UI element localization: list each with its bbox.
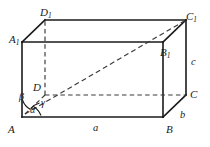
vertex-label-C1: C1	[186, 11, 197, 22]
cuboid-drawing	[0, 0, 210, 147]
geometry-figure: D1 C1 A1 B1 D C A B a b c α β γ	[0, 0, 210, 147]
vertex-label-B1: B1	[160, 47, 170, 58]
angle-label-alpha: α	[30, 105, 35, 115]
vertex-label-C: C	[190, 89, 197, 100]
edge-label-c: c	[191, 57, 196, 68]
vertex-label-D1: D1	[40, 7, 52, 18]
space-diagonal	[25, 20, 186, 114]
vertex-label-A1: A1	[9, 34, 19, 45]
vertex-label-D: D	[33, 82, 41, 93]
diagonal-A-C1	[25, 20, 186, 114]
vertex-label-B: B	[166, 124, 173, 135]
angle-label-beta: β	[19, 92, 24, 102]
edge-label-b: b	[180, 110, 185, 121]
vertex-label-A: A	[8, 124, 15, 135]
edge-A1-D1	[22, 20, 45, 42]
edge-label-a: a	[93, 123, 98, 134]
angle-label-gamma: γ	[41, 98, 45, 108]
